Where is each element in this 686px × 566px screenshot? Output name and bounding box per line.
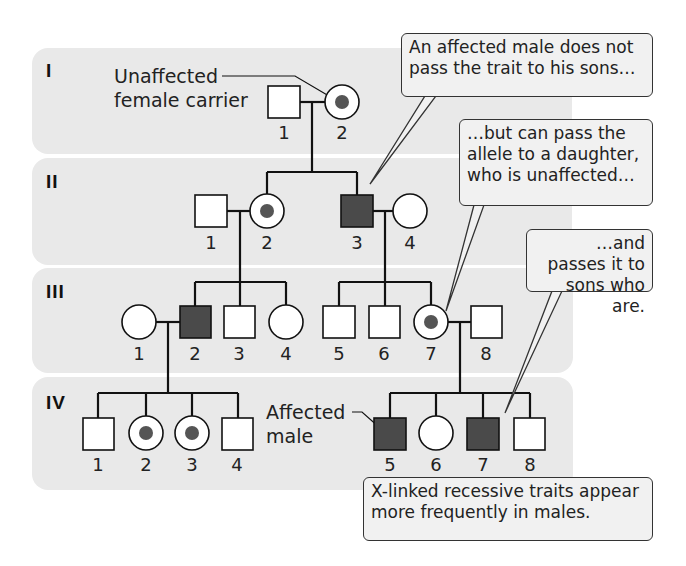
id-III-4: 4 [271, 343, 301, 364]
id-IV-5: 5 [375, 454, 405, 475]
individual-III-6-male [369, 306, 400, 338]
id-IV-7: 7 [468, 454, 498, 475]
id-III-5: 5 [324, 343, 354, 364]
id-I-1: 1 [269, 122, 299, 143]
individual-IV-8-male [514, 418, 545, 450]
individual-I-2-female-carrier [325, 85, 359, 119]
id-III-1: 1 [124, 343, 154, 364]
affected-label-line1: Affected [266, 400, 345, 424]
individual-IV-6-female [419, 416, 453, 450]
id-IV-8: 8 [515, 454, 545, 475]
individual-IV-3-female-carrier [175, 416, 209, 450]
individual-IV-4-male [222, 418, 253, 450]
callout-1-pointer [370, 96, 436, 184]
individual-II-3-affected-male [341, 195, 373, 227]
individual-III-4-female [269, 305, 303, 339]
individual-III-8-male [471, 306, 502, 338]
individual-IV-1-male [83, 418, 114, 450]
individual-II-4-female [393, 194, 427, 228]
id-III-3: 3 [224, 343, 254, 364]
id-III-7: 7 [416, 343, 446, 364]
individual-IV-2-female-carrier [129, 416, 163, 450]
id-IV-2: 2 [131, 454, 161, 475]
affected-label-line2: male [266, 424, 345, 448]
individual-II-1-male [195, 195, 227, 227]
callout-pass-to-daughter: …but can pass the allele to a daughter, … [459, 119, 653, 206]
id-III-2: 2 [180, 343, 210, 364]
id-IV-6: 6 [421, 454, 451, 475]
individual-III-2-affected-male [180, 306, 211, 338]
individual-III-1-female [122, 305, 156, 339]
id-II-1: 1 [196, 232, 226, 253]
individual-IV-7-affected-male [467, 418, 499, 450]
individual-III-5-male [323, 306, 355, 338]
callout-2-pointer [446, 205, 484, 311]
callout-3-pointer [505, 291, 562, 413]
carrier-label-line1: Unaffected [114, 64, 248, 88]
id-IV-4: 4 [222, 454, 252, 475]
id-III-6: 6 [369, 343, 399, 364]
individual-III-3-male [224, 306, 255, 338]
id-II-2: 2 [252, 232, 282, 253]
id-II-4: 4 [395, 232, 425, 253]
id-IV-1: 1 [83, 454, 113, 475]
callout-x-linked-summary: X-linked recessive traits appear more fr… [363, 477, 653, 541]
individual-I-1-male [268, 86, 300, 118]
carrier-label-line2: female carrier [114, 88, 248, 112]
carrier-label: Unaffected female carrier [114, 64, 248, 112]
affected-male-label: Affected male [266, 400, 345, 448]
id-I-2: 2 [327, 122, 357, 143]
individual-III-7-female-carrier [414, 305, 448, 339]
individual-IV-5-affected-male [374, 418, 406, 450]
id-II-3: 3 [342, 232, 372, 253]
callout-affected-male-sons: An affected male does not pass the trait… [401, 33, 653, 97]
id-III-8: 8 [471, 343, 501, 364]
id-IV-3: 3 [177, 454, 207, 475]
individual-II-2-female-carrier [250, 194, 284, 228]
callout-sons-affected: …and passes it to sons who are. [526, 229, 653, 292]
